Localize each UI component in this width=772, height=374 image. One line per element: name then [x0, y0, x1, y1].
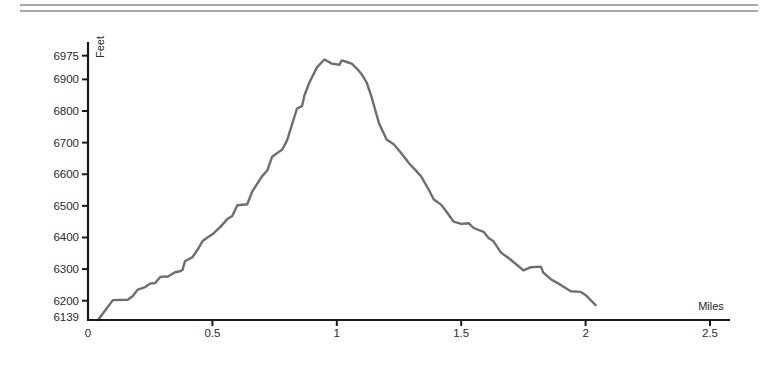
x-axis-title: Miles	[698, 300, 724, 312]
elevation-profile-chart: 6139620063006400650066006700680069006975…	[0, 0, 772, 374]
y-tick-label: 6975	[53, 50, 79, 62]
y-axis-title: Feet	[94, 36, 106, 58]
elevation-series-line	[98, 60, 596, 321]
y-tick-label: 6139	[53, 311, 79, 323]
x-axis-ticks: 00.511.522.5	[85, 320, 718, 339]
y-tick-label: 6300	[53, 263, 79, 275]
x-tick-label: 1.5	[453, 327, 469, 339]
y-tick-label: 6200	[53, 295, 79, 307]
y-axis-ticks: 6139620063006400650066006700680069006975	[53, 50, 88, 323]
x-tick-label: 2	[582, 327, 588, 339]
x-tick-label: 0	[85, 327, 91, 339]
x-tick-label: 1	[334, 327, 340, 339]
x-tick-label: 2.5	[702, 327, 718, 339]
y-tick-label: 6900	[53, 73, 79, 85]
y-tick-label: 6700	[53, 137, 79, 149]
x-tick-label: 0.5	[204, 327, 220, 339]
elevation-line	[98, 60, 596, 321]
y-tick-label: 6500	[53, 200, 79, 212]
y-tick-label: 6400	[53, 231, 79, 243]
y-tick-label: 6600	[53, 168, 79, 180]
y-tick-label: 6800	[53, 105, 79, 117]
chart-axes	[87, 42, 730, 321]
